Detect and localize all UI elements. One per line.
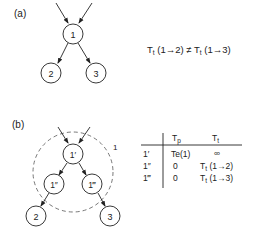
node-1-double-prime-label: 1″ — [50, 180, 58, 190]
header-tt: Tt — [212, 133, 219, 144]
row3-tt-sub: t — [205, 177, 207, 184]
header-tp-sub: p — [177, 137, 181, 144]
row3-tt-arg: (1→3) — [209, 173, 233, 183]
node-2-label: 2 — [48, 69, 53, 79]
row2-node: 1″ — [143, 161, 151, 171]
edge-1p-1ppp — [79, 163, 86, 175]
eq-rhs-sub: t — [200, 49, 202, 56]
equation: Tt (1→2) ≠ Tt (1→3) — [147, 44, 231, 56]
edge-in-left — [56, 3, 68, 23]
edge-1-2 — [58, 43, 68, 63]
node-1-label: 1 — [70, 30, 75, 40]
edge-1ppp-3 — [98, 193, 105, 206]
group-label: 1 — [113, 143, 118, 152]
header-tt-sub: t — [217, 137, 219, 144]
row2-tp: 0 — [173, 161, 178, 171]
row1-tt: ∞ — [214, 148, 220, 158]
node-1-prime-label: 1′ — [70, 150, 77, 160]
row3-node: 1‴ — [143, 173, 151, 183]
edge-1-3 — [78, 43, 90, 63]
edge-in-left-b — [58, 127, 68, 143]
panel-a-label: (a) — [14, 8, 26, 19]
node-1-triple-prime-label: 1‴ — [88, 180, 96, 190]
row2-tt-sub: t — [205, 165, 207, 172]
node-3-label: 3 — [93, 69, 98, 79]
node-2-b-label: 2 — [33, 212, 38, 222]
eq-lhs-arg: (1→2) — [157, 44, 183, 55]
header-tp: Tp — [172, 133, 181, 144]
edge-1pp-2 — [41, 193, 49, 206]
row2-tt-arg: (1→2) — [209, 161, 233, 171]
row3-tt: Tt (1→3) — [200, 173, 233, 184]
row3-tp: 0 — [173, 173, 178, 183]
edge-1p-1pp — [59, 163, 67, 175]
diagram-canvas: (a) 1 2 3 (b) 1 1′ 1″ 1‴ — [0, 0, 256, 232]
panel-a: (a) 1 2 3 — [14, 3, 106, 83]
node-3-b-label: 3 — [107, 212, 112, 222]
row2-tt: Tt (1→2) — [200, 161, 233, 172]
row1-tp: Te(1) — [171, 149, 190, 159]
eq-relation: ≠ — [186, 44, 191, 55]
eq-rhs-arg: (1→3) — [204, 44, 230, 55]
row1-node: 1′ — [143, 149, 149, 159]
panel-b-label: (b) — [12, 119, 24, 130]
edge-in-right — [79, 3, 92, 23]
eq-lhs-sub: t — [153, 49, 155, 56]
